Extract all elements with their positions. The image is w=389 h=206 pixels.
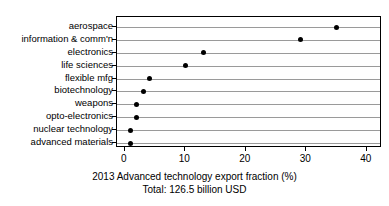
chart-caption: 2013 Advanced technology export fraction…: [0, 170, 389, 196]
data-point: [141, 89, 146, 94]
data-point: [334, 25, 339, 30]
y-axis-tick-label: life sciences: [0, 60, 113, 70]
x-axis-tick: [366, 147, 367, 151]
data-point: [134, 115, 139, 120]
y-axis-tick-label: aerospace: [0, 21, 113, 31]
y-axis-tick-label: flexible mfg: [0, 73, 113, 83]
data-point: [201, 50, 206, 55]
data-point: [298, 37, 303, 42]
y-axis-tick-label: weapons: [0, 98, 113, 108]
y-axis-tick-label: opto-electronics: [0, 111, 113, 121]
gridline: [117, 53, 380, 54]
y-axis-tick-label: nuclear technology: [0, 124, 113, 134]
gridline: [117, 66, 380, 67]
x-axis-title: 2013 Advanced technology export fraction…: [0, 170, 389, 183]
x-axis-tick-label: 30: [300, 153, 311, 164]
gridline: [117, 91, 380, 92]
x-axis-tick-label: 20: [239, 153, 250, 164]
gridline: [117, 143, 380, 144]
gridline: [117, 27, 380, 28]
y-axis-tick: [112, 103, 116, 104]
gridline: [117, 104, 380, 105]
x-axis-tick-label: 0: [121, 153, 127, 164]
data-point: [128, 128, 133, 133]
gridline: [117, 130, 380, 131]
data-point: [183, 63, 188, 68]
data-point: [134, 102, 139, 107]
x-axis-tick: [305, 147, 306, 151]
x-axis-tick-label: 10: [179, 153, 190, 164]
gridline: [117, 79, 380, 80]
y-axis-tick: [112, 52, 116, 53]
y-axis-tick: [112, 65, 116, 66]
data-point: [147, 76, 152, 81]
y-axis-tick: [112, 26, 116, 27]
y-axis-tick: [112, 39, 116, 40]
y-axis-tick-label: electronics: [0, 47, 113, 57]
y-axis-tick-label: advanced materials: [0, 137, 113, 147]
gridline: [117, 40, 380, 41]
y-axis-tick: [112, 129, 116, 130]
x-axis-tick: [124, 147, 125, 151]
y-axis-tick: [112, 142, 116, 143]
y-axis-tick-label: biotechnology: [0, 85, 113, 95]
x-axis-tick-label: 40: [360, 153, 371, 164]
y-axis-tick: [112, 78, 116, 79]
plot-area: [116, 16, 381, 147]
data-point: [128, 141, 133, 146]
y-axis-tick: [112, 116, 116, 117]
y-axis: aerospaceinformation & comm'nelectronics…: [0, 16, 113, 147]
chart-figure: aerospaceinformation & comm'nelectronics…: [0, 0, 389, 206]
y-axis-tick: [112, 90, 116, 91]
total-label: Total: 126.5 billion USD: [0, 183, 389, 196]
gridline: [117, 117, 380, 118]
y-axis-tick-label: information & comm'n: [0, 34, 113, 44]
x-axis-tick: [245, 147, 246, 151]
x-axis-tick: [184, 147, 185, 151]
